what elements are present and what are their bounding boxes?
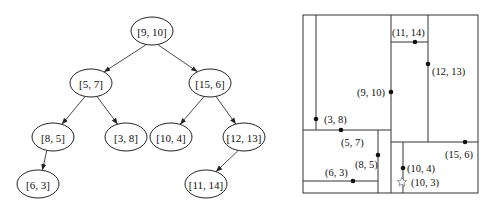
tree-node: [15, 6] [189,69,231,97]
tree-edge [158,45,197,72]
point-dot [339,128,344,133]
point-label: (10, 4) [407,163,435,175]
point-dot [413,40,418,45]
point-dot [463,140,468,145]
point-label: (3, 8) [324,114,347,126]
tree-node: [9, 10] [131,17,173,45]
point-label: (11, 14) [392,27,425,39]
query-point: (10, 3) [397,177,439,189]
point-dot [376,153,381,158]
tree-edge [180,97,204,124]
point-label: (9, 10) [357,87,385,99]
point-dot [389,90,394,95]
tree-edge [42,151,46,170]
point-dot [426,62,431,67]
point-dot [351,179,356,184]
point-label: (5, 7) [341,137,364,149]
node-label: [6, 3] [26,179,50,191]
point-label: (6, 3) [325,167,348,179]
tree-edge [216,97,236,124]
point-label: (15, 6) [445,149,473,161]
partition-points: (9, 10)(5, 7)(15, 6)(3, 8)(8, 5)(10, 4)(… [314,27,474,183]
spatial-partition-diagram: (9, 10)(5, 7)(15, 6)(3, 8)(8, 5)(10, 4)(… [303,15,478,193]
tree-node: [11, 14] [185,170,227,198]
kd-tree-figure: [9, 10][5, 7][15, 6][8, 5][3, 8][10, 4][… [0,0,486,208]
tree-node: [6, 3] [17,170,59,198]
tree-edge [104,45,146,72]
tree-nodes: [9, 10][5, 7][15, 6][8, 5][3, 8][10, 4][… [17,17,265,198]
query-point-label: (10, 3) [411,177,439,189]
tree-node: [8, 5] [32,123,74,151]
tree-edge [97,97,117,124]
star-icon [397,177,407,186]
tree-node: [12, 13] [223,123,265,151]
node-label: [12, 13] [227,132,262,144]
node-label: [15, 6] [195,78,224,90]
point-dot [401,166,406,171]
point-label: (8, 5) [355,159,378,171]
node-label: [8, 5] [41,132,65,144]
node-label: [3, 8] [114,132,138,144]
tree-edges [42,45,237,172]
tree-node: [5, 7] [70,69,112,97]
tree-node: [10, 4] [150,123,192,151]
node-label: [10, 4] [156,132,185,144]
node-label: [5, 7] [79,78,103,90]
point-label: (12, 13) [432,66,466,78]
tree-edge [62,97,85,124]
tree-node: [3, 8] [105,123,147,151]
node-label: [11, 14] [189,179,223,191]
node-label: [9, 10] [137,26,166,38]
point-dot [314,117,319,122]
tree-edge [216,151,238,172]
